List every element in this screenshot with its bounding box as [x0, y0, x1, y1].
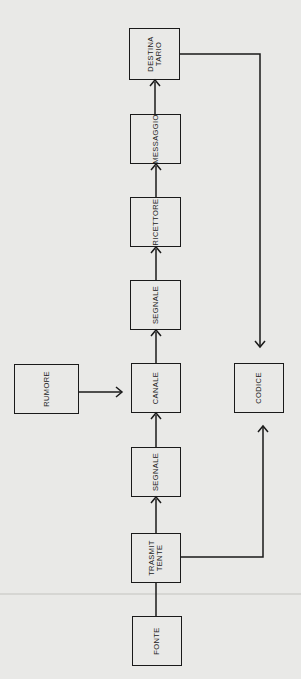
- node-ricettore: RICETTORE: [130, 197, 181, 247]
- node-label: FONTE: [153, 627, 161, 654]
- node-label: RUMORE: [43, 371, 51, 407]
- node-destinatario: DESTINATARIO: [129, 28, 180, 80]
- node-label: MESSAGGIO: [152, 114, 160, 163]
- node-label: CANALE: [152, 372, 160, 404]
- node-label: SEGNALE: [152, 453, 160, 491]
- node-label: RICETTORE: [152, 199, 160, 246]
- node-label: CODICE: [255, 372, 263, 404]
- node-messaggio: MESSAGGIO: [130, 114, 181, 164]
- node-fonte: FONTE: [132, 616, 182, 666]
- node-segnale-1: SEGNALE: [131, 447, 181, 497]
- node-canale: CANALE: [131, 363, 181, 413]
- node-codice: CODICE: [234, 363, 284, 413]
- node-label: SEGNALE: [152, 286, 160, 324]
- node-segnale-2: SEGNALE: [130, 280, 181, 330]
- node-trasmittente: TRASMITTENTE: [131, 533, 181, 583]
- node-label: TRASMITTENTE: [148, 540, 164, 576]
- node-label: DESTINATARIO: [147, 36, 163, 71]
- node-rumore: RUMORE: [14, 364, 79, 414]
